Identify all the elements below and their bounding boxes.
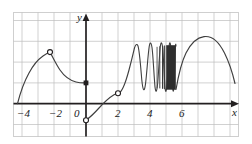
plot-canvas (0, 0, 252, 144)
y-axis-label: y (77, 12, 82, 23)
x-tick-label-4: 4 (147, 108, 153, 119)
x-tick-label-2: 2 (115, 108, 121, 119)
open-circle-corner-peak (48, 50, 53, 55)
x-tick-label-0: 0 (74, 108, 80, 119)
x-tick-label-6: 6 (179, 108, 185, 119)
filled-dot-y-intercept (84, 81, 89, 86)
plot-frame (14, 13, 239, 137)
open-circle-below-origin (84, 118, 89, 123)
x-axis-label: x (232, 107, 237, 118)
x-tick-label-minus-4: −4 (17, 108, 30, 119)
x-tick-label-minus-2: −2 (49, 108, 62, 119)
graph-figure: −4 −2 0 2 4 6 y x (0, 0, 252, 144)
open-circle-at-x-2 (116, 91, 121, 96)
